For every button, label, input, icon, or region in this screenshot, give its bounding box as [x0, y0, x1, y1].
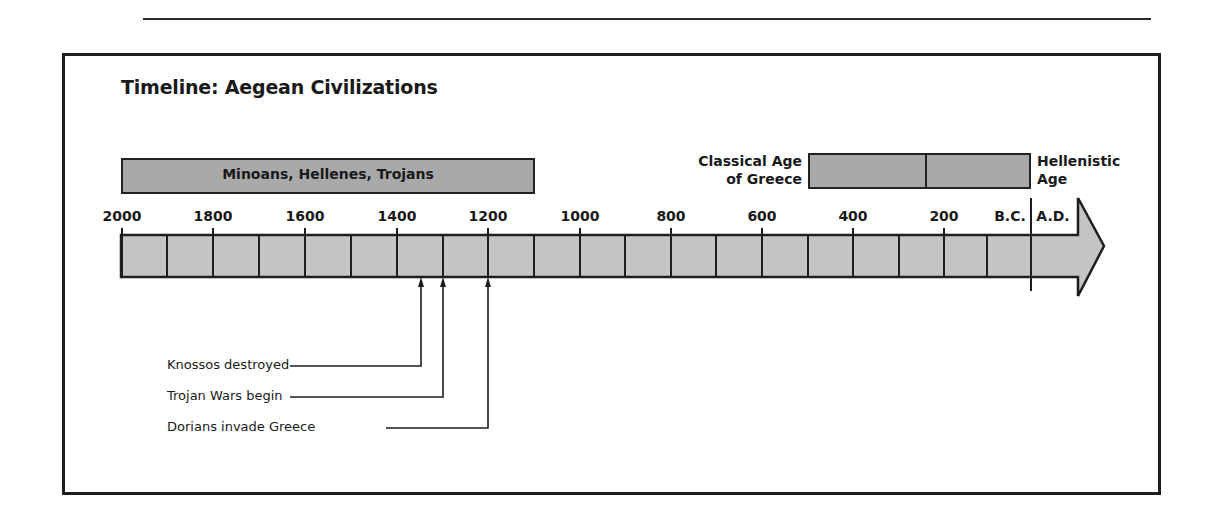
tick-label-1600: 1600	[286, 208, 325, 224]
tick-label-1800: 1800	[194, 208, 233, 224]
tick-label-200: 200	[929, 208, 958, 224]
event-label-knossos: Knossos destroyed	[167, 357, 289, 372]
tick-label-1400: 1400	[378, 208, 417, 224]
tick-label-600: 600	[747, 208, 776, 224]
ad-label: A.D.	[1036, 208, 1069, 224]
tick-label-400: 400	[838, 208, 867, 224]
tick-label-1200: 1200	[469, 208, 508, 224]
bc-label: B.C.	[994, 208, 1026, 224]
timeline-arrow	[0, 0, 1222, 516]
event-label-dorians: Dorians invade Greece	[167, 419, 315, 434]
tick-label-2000: 2000	[103, 208, 142, 224]
tick-label-1000: 1000	[561, 208, 600, 224]
tick-label-800: 800	[656, 208, 685, 224]
event-label-trojan-wars: Trojan Wars begin	[167, 388, 283, 403]
